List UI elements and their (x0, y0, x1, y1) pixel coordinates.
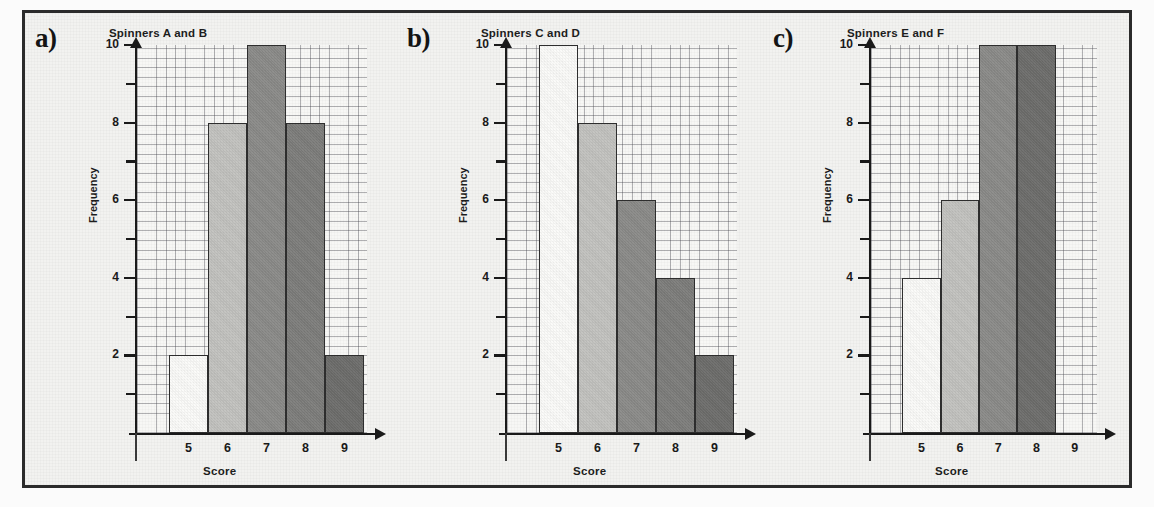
x-tick-label-b-7: 7 (617, 441, 656, 455)
y-axis-line-c (869, 47, 871, 435)
chart-panel-c: c) Spinners E and F Frequency Score 5678… (763, 13, 1129, 485)
bars-layer-a (137, 45, 367, 433)
y-tick-major-c-6 (858, 199, 871, 201)
x-axis-label-a: Score (203, 465, 236, 477)
bars-layer-b (507, 45, 737, 433)
x-axis-label-b: Score (573, 465, 606, 477)
y-axis-line-b (505, 47, 507, 435)
y-tick-minor-b-3 (496, 316, 506, 318)
y-tick-major-a-2 (124, 354, 137, 356)
panel-label-b: b) (407, 23, 430, 54)
bar-c-score-8 (1017, 45, 1055, 433)
y-tick-label-a-10: 10 (89, 37, 119, 51)
y-tick-major-c-4 (858, 277, 871, 279)
y-tick-minor-a-9 (126, 83, 136, 85)
x-tick-label-b-9: 9 (695, 441, 734, 455)
chart-title-c: Spinners E and F (847, 27, 944, 39)
y-tick-label-b-2: 2 (459, 347, 489, 361)
figure-frame: a) Spinners A and B Frequency Score 5678… (22, 10, 1132, 488)
x-tick-label-c-6: 6 (941, 441, 979, 455)
y-tick-minor-a-1 (126, 393, 136, 395)
y-axis-stub-c (869, 433, 871, 461)
y-tick-minor-c-1 (860, 393, 870, 395)
y-tick-major-b-8 (494, 122, 507, 124)
bar-b-score-7 (617, 200, 656, 433)
y-tick-major-a-6 (124, 199, 137, 201)
bar-a-score-5 (169, 355, 208, 433)
y-axis-label-b: Frequency (457, 167, 469, 223)
x-axis-line-a (129, 433, 375, 435)
y-tick-label-a-4: 4 (89, 270, 119, 284)
x-axis-label-c: Score (935, 465, 968, 477)
y-tick-minor-a-3 (126, 316, 136, 318)
bar-a-score-8 (286, 123, 325, 433)
y-tick-label-c-4: 4 (823, 270, 853, 284)
x-axis-arrow-c (1105, 428, 1116, 440)
scanned-figure-page: a) Spinners A and B Frequency Score 5678… (0, 0, 1154, 507)
y-tick-minor-b-1 (496, 393, 506, 395)
y-axis-line-a (135, 47, 137, 435)
x-tick-label-b-6: 6 (578, 441, 617, 455)
bar-b-score-5 (539, 45, 578, 433)
bar-b-score-8 (656, 278, 695, 433)
x-tick-label-a-9: 9 (325, 441, 364, 455)
x-axis-line-c (863, 433, 1105, 435)
x-tick-label-a-5: 5 (169, 441, 208, 455)
y-tick-minor-b-9 (496, 83, 506, 85)
chart-title-a: Spinners A and B (109, 27, 207, 39)
y-axis-label-c: Frequency (821, 167, 833, 223)
y-tick-label-b-10: 10 (459, 37, 489, 51)
y-tick-major-c-2 (858, 354, 871, 356)
y-tick-major-c-10 (858, 44, 871, 46)
y-tick-major-a-10 (124, 44, 137, 46)
plot-area-a (137, 45, 367, 433)
y-tick-major-b-2 (494, 354, 507, 356)
y-tick-minor-c-5 (860, 238, 870, 240)
y-axis-stub-b (505, 433, 507, 461)
y-tick-label-b-4: 4 (459, 270, 489, 284)
x-tick-label-a-6: 6 (208, 441, 247, 455)
x-axis-arrow-b (745, 428, 756, 440)
bars-layer-c (871, 45, 1097, 433)
x-axis-arrow-a (375, 428, 386, 440)
y-tick-label-c-2: 2 (823, 347, 853, 361)
y-axis-stub-a (135, 433, 137, 461)
y-tick-minor-a-7 (126, 160, 136, 162)
plot-area-b (507, 45, 737, 433)
y-tick-major-b-6 (494, 199, 507, 201)
y-tick-major-a-8 (124, 122, 137, 124)
bar-a-score-9 (325, 355, 364, 433)
panel-label-a: a) (35, 23, 57, 54)
y-tick-label-b-8: 8 (459, 115, 489, 129)
chart-panel-a: a) Spinners A and B Frequency Score 5678… (25, 13, 403, 485)
bar-a-score-7 (247, 45, 286, 433)
x-tick-label-b-8: 8 (656, 441, 695, 455)
x-tick-label-a-7: 7 (247, 441, 286, 455)
y-tick-minor-c-3 (860, 316, 870, 318)
y-axis-label-a: Frequency (87, 167, 99, 223)
y-tick-minor-b-7 (496, 160, 506, 162)
y-tick-minor-b-5 (496, 238, 506, 240)
chart-panel-b: b) Spinners C and D Frequency Score 5678… (397, 13, 769, 485)
y-tick-label-c-8: 8 (823, 115, 853, 129)
y-tick-major-c-8 (858, 122, 871, 124)
bar-c-score-7 (979, 45, 1017, 433)
x-tick-label-c-8: 8 (1017, 441, 1055, 455)
plot-area-c (871, 45, 1097, 433)
x-tick-label-a-8: 8 (286, 441, 325, 455)
y-tick-major-a-4 (124, 277, 137, 279)
x-tick-label-c-9: 9 (1056, 441, 1094, 455)
y-tick-label-c-10: 10 (823, 37, 853, 51)
panel-label-c: c) (773, 23, 793, 54)
y-tick-minor-c-9 (860, 83, 870, 85)
bar-b-score-6 (578, 123, 617, 433)
bar-c-score-6 (941, 200, 979, 433)
y-tick-minor-c-7 (860, 160, 870, 162)
x-tick-label-c-5: 5 (902, 441, 940, 455)
y-tick-label-a-2: 2 (89, 347, 119, 361)
y-tick-major-b-10 (494, 44, 507, 46)
x-tick-label-b-5: 5 (539, 441, 578, 455)
y-tick-major-b-4 (494, 277, 507, 279)
bar-c-score-5 (902, 278, 940, 433)
y-tick-minor-a-5 (126, 238, 136, 240)
